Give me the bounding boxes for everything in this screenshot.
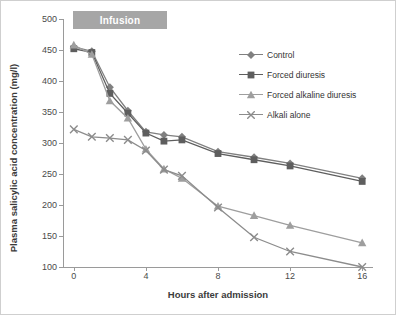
y-tick-label: 500 xyxy=(42,14,57,24)
y-tick-label: 100 xyxy=(42,262,57,272)
data-point-marker xyxy=(250,233,258,241)
x-tick-label: 12 xyxy=(285,271,295,281)
data-point-marker xyxy=(161,138,168,145)
legend-item-3[interactable]: Forced alkaline diuresis xyxy=(239,85,391,105)
x-tick-label: 4 xyxy=(143,271,148,281)
y-tick-label: 200 xyxy=(42,200,57,210)
y-tick-label: 350 xyxy=(42,107,57,117)
data-point-marker xyxy=(215,150,222,157)
series-4 xyxy=(70,126,366,271)
legend-label: Control xyxy=(267,50,294,60)
legend-symbol-cross-icon xyxy=(247,111,255,119)
x-axis-title: Hours after admission xyxy=(63,289,373,300)
x-tick-label: 8 xyxy=(215,271,220,281)
data-point-marker xyxy=(106,97,114,105)
data-point-marker xyxy=(179,137,186,144)
y-tick-label: 400 xyxy=(42,76,57,86)
legend-marker-icon xyxy=(239,108,263,122)
x-tick-label: 16 xyxy=(357,271,367,281)
data-point-marker xyxy=(251,156,258,163)
legend-label: Alkali alone xyxy=(267,110,310,120)
legend-symbol-diamond-icon xyxy=(247,51,255,59)
legend-label: Forced alkaline diuresis xyxy=(267,90,356,100)
chart-container: Infusion Plasma salicylic acid concentra… xyxy=(0,0,396,315)
legend-symbol-square-icon xyxy=(247,71,255,79)
y-axis-title: Plasma salicylic acid concentration (mg/… xyxy=(8,43,19,273)
chart-legend: ControlForced diuresisForced alkaline di… xyxy=(239,45,391,125)
legend-item-1[interactable]: Control xyxy=(239,45,391,65)
x-tick-label: 0 xyxy=(71,271,76,281)
legend-marker-icon xyxy=(239,48,263,62)
data-point-marker xyxy=(143,130,150,137)
y-tick-label: 300 xyxy=(42,138,57,148)
legend-label: Forced diuresis xyxy=(267,70,325,80)
legend-marker-icon xyxy=(239,68,263,82)
legend-item-2[interactable]: Forced diuresis xyxy=(239,65,391,85)
data-point-marker xyxy=(359,178,366,185)
legend-marker-icon xyxy=(239,88,263,102)
y-tick-label: 150 xyxy=(42,231,57,241)
y-tick-label: 450 xyxy=(42,45,57,55)
y-tick-mark xyxy=(59,267,63,268)
data-point-marker xyxy=(287,163,294,170)
legend-item-4[interactable]: Alkali alone xyxy=(239,105,391,125)
data-point-marker xyxy=(247,91,255,98)
data-point-marker xyxy=(248,72,255,79)
y-tick-label: 250 xyxy=(42,169,57,179)
data-point-marker xyxy=(70,126,78,134)
data-point-marker xyxy=(247,51,255,59)
legend-symbol-triangle-icon xyxy=(247,91,255,99)
data-point-marker xyxy=(70,41,78,49)
data-point-marker xyxy=(247,111,255,119)
